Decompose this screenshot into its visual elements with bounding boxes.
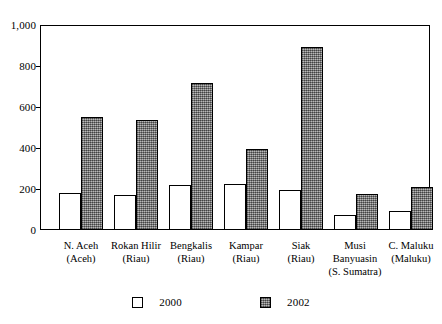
white-square-icon xyxy=(132,297,143,308)
x-tick-label-line: (Maluku) xyxy=(366,252,442,265)
y-tick-label-800: 800 xyxy=(0,61,36,72)
bar-2002-bengkalis xyxy=(191,83,213,230)
legend-label-2002: 2002 xyxy=(287,296,310,308)
legend-item-2000: 2000 xyxy=(132,296,182,308)
y-tick-label-0: 0 xyxy=(0,225,36,236)
bar-2000-siak xyxy=(279,190,301,230)
y-tick-label-400: 400 xyxy=(0,143,36,154)
bar-2000-bengkalis xyxy=(169,185,191,230)
bar-2002-siak xyxy=(301,47,323,230)
hatched-square-icon xyxy=(260,297,271,308)
x-tick-label-c-maluku: C. Maluku(Maluku) xyxy=(366,239,442,265)
x-tick-label-line: (S. Sumatra) xyxy=(310,265,400,278)
y-tick-label-200: 200 xyxy=(0,184,36,195)
legend-item-2002: 2002 xyxy=(260,296,310,308)
x-tick-label-line: C. Maluku xyxy=(366,239,442,252)
bar-2002-kampar xyxy=(246,149,268,230)
bar-2000-rokan-hilir xyxy=(114,195,136,230)
y-tick-label-600: 600 xyxy=(0,102,36,113)
bar-2000-n-aceh xyxy=(59,193,81,230)
legend-label-2000: 2000 xyxy=(159,296,182,308)
bar-2002-rokan-hilir xyxy=(136,120,158,230)
x-axis-labels: N. Aceh(Aceh) Rokan Hilir(Riau) Bengkali… xyxy=(41,239,429,285)
y-tick-label-1000: 1,000 xyxy=(0,20,36,31)
bar-2000-kampar xyxy=(224,184,246,230)
bar-chart: 1,000 800 600 400 200 0 N. A xyxy=(0,0,442,324)
bar-2000-musi-banyuasin xyxy=(334,215,356,230)
legend: 2000 2002 xyxy=(0,292,442,312)
bar-2002-c-maluku xyxy=(411,187,433,230)
y-axis: 1,000 800 600 400 200 0 xyxy=(0,0,36,324)
bar-2002-n-aceh xyxy=(81,117,103,230)
bar-2002-musi-banyuasin xyxy=(356,194,378,230)
bar-2000-c-maluku xyxy=(389,211,411,230)
bars-layer xyxy=(41,26,429,230)
